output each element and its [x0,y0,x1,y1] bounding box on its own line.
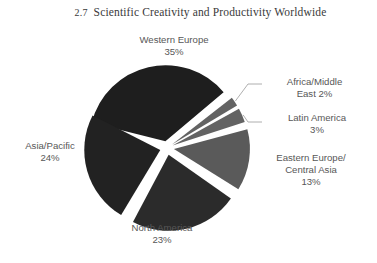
pie-label-north-america: North America 23% [104,222,220,246]
pie-label-latin-america: Latin America 3% [262,112,372,136]
pie-label-eastern-europe: Eastern Europe/ Central Asia 13% [250,152,372,189]
pie-label-asia-pacific: Asia/Pacific 24% [2,140,98,164]
pie-label-western-europe: Western Europe 35% [114,34,234,58]
pie-slice-group [84,65,250,231]
leader-line-latin-america [243,115,262,122]
chart-page: 2.7 Scientific Creativity and Productivi… [0,0,377,263]
leader-line-africa-middle-east [235,84,262,101]
pie-label-africa-middle-east: Africa/Middle East 2% [262,76,367,100]
